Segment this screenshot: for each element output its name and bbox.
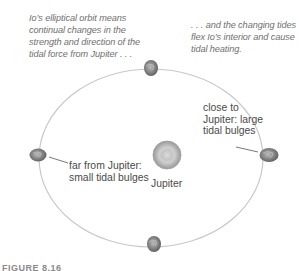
io-moon-top [144,60,158,76]
label-close-to-jupiter: close to Jupiter: large tidal bulges [203,102,273,137]
jupiter-planet [153,141,181,169]
orbit-ellipse [39,69,263,247]
label-far-from-jupiter: far from Jupiter: small tidal bulges [69,160,149,183]
annotation-orbit-changes: Io’s elliptical orbit means continual ch… [29,12,141,60]
leader-line-far [49,157,68,163]
io-moon-bottom [147,236,161,252]
label-jupiter: Jupiter [151,178,182,190]
figure-caption: FIGURE 8.16 [2,263,62,271]
leader-line-close [236,147,258,152]
io-moon-far [30,149,47,162]
annotation-tidal-heating: . . . and the changing tides flex Io’s i… [191,19,299,55]
io-orbit-diagram: Io’s elliptical orbit means continual ch… [0,0,299,271]
io-moon-close [260,148,279,162]
